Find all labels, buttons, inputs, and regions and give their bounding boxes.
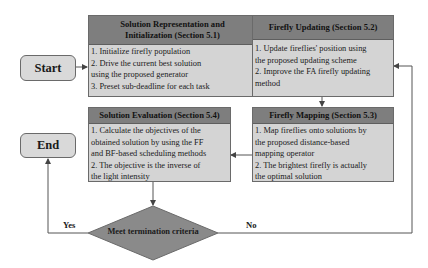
no-label: No [246,220,257,230]
mapping-box-header: Firefly Mapping (Section 5.3) [253,108,393,124]
start-terminal: Start [20,55,76,81]
end-label: End [37,138,59,153]
start-label: Start [34,61,61,76]
evaluation-line: 1. Calculate the objectives of the [91,125,228,137]
evaluation-line: 2. The objective is the inverse of [91,160,228,172]
mapping-line: mapping operator [255,148,391,160]
update-box: Firefly Updating (Section 5.2) 1. Update… [252,15,394,97]
mapping-line: 1. Map fireflies onto solutions by [255,125,391,137]
mapping-box: Firefly Mapping (Section 5.3) 1. Map fir… [252,107,394,182]
init-title-line2: Initialization (Section 5.1) [91,30,254,41]
evaluation-box: Solution Evaluation (Section 5.4) 1. Cal… [88,107,231,182]
evaluation-title: Solution Evaluation (Section 5.4) [91,110,228,121]
yes-label: Yes [63,220,75,230]
evaluation-line: and BF-based scheduling methods [91,148,228,160]
init-box-header: Solution Representation and Initializati… [89,16,256,45]
evaluation-line: obtained solution by using the FF [91,137,228,149]
update-line: the proposed updating scheme [255,55,391,67]
update-line: 2. Improve the FA firefly updating [255,66,391,78]
init-line: 2. Drive the current best solution [91,58,254,70]
evaluation-box-header: Solution Evaluation (Section 5.4) [89,108,230,124]
update-box-header: Firefly Updating (Section 5.2) [253,16,393,40]
init-box: Solution Representation and Initializati… [88,15,257,97]
update-title: Firefly Updating (Section 5.2) [255,22,391,33]
init-box-body: 1. Initialize firefly population 2. Driv… [89,45,256,93]
update-line: 1. Update fireflies' position using [255,43,391,55]
mapping-box-body: 1. Map fireflies onto solutions by the p… [253,124,393,184]
evaluation-line: the light intensity [91,171,228,183]
mapping-line: the optimal solution [255,171,391,183]
mapping-title: Firefly Mapping (Section 5.3) [255,110,391,121]
mapping-line: the proposed distance-based [255,137,391,149]
init-line: 1. Initialize firefly population [91,46,254,58]
evaluation-box-body: 1. Calculate the objectives of the obtai… [89,124,230,184]
init-line: 3. Preset sub-deadline for each task [91,81,254,93]
init-title-line1: Solution Representation and [91,19,254,30]
end-terminal: End [20,133,76,158]
update-line: method [255,78,391,90]
mapping-line: 2. The brightest firefly is actually [255,160,391,172]
decision-label: Meet termination criteria [93,227,213,236]
update-box-body: 1. Update fireflies' position using the … [253,40,393,90]
init-line: using the proposed generator [91,69,254,81]
